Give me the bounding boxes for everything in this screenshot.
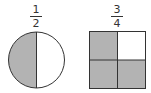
half-circle-figure <box>9 32 65 88</box>
shaded-quarter-bottom-left <box>90 60 118 89</box>
quarter-square-figure <box>90 32 146 90</box>
fraction-figures <box>0 0 151 93</box>
shaded-half <box>9 32 37 88</box>
shaded-quarter-top-left <box>90 32 118 61</box>
shaded-quarter-bottom-right <box>118 60 146 89</box>
